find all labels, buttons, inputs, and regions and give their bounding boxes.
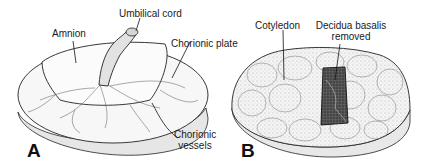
- label-chorionic-vessels-line1: Chorionic: [174, 129, 216, 140]
- panel-letter-a: A: [27, 141, 41, 160]
- label-decidua-line2: removed: [313, 31, 389, 42]
- placenta-maternal-surface: [232, 30, 410, 157]
- label-cotyledon: Cotyledon: [255, 20, 300, 31]
- label-umbilical-cord: Umbilical cord: [119, 8, 182, 19]
- decidua-removed-region: [321, 67, 348, 125]
- placenta-diagram: Umbilical cord Amnion Chorionic plate Ch…: [0, 0, 424, 167]
- label-amnion: Amnion: [52, 28, 86, 39]
- label-decidua-basalis-removed: Decidua basalis removed: [313, 20, 389, 42]
- label-chorionic-vessels-line2: vessels: [174, 140, 216, 151]
- label-chorionic-plate: Chorionic plate: [171, 38, 238, 49]
- panel-letter-b: B: [241, 141, 255, 160]
- label-chorionic-vessels: Chorionic vessels: [174, 129, 216, 151]
- label-decidua-line1: Decidua basalis: [313, 20, 389, 31]
